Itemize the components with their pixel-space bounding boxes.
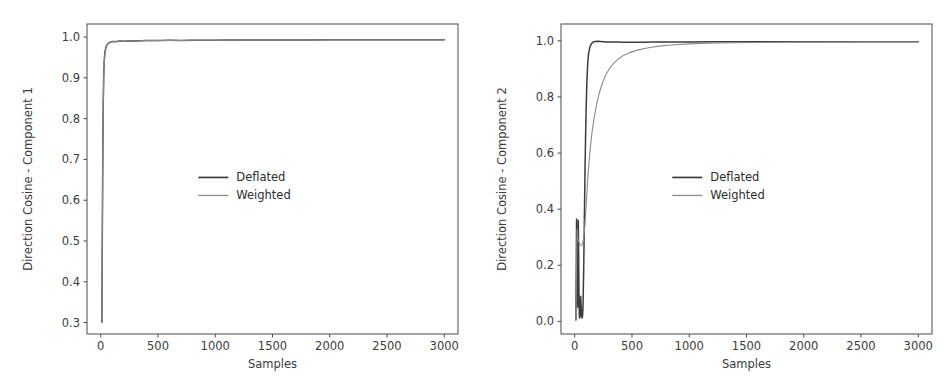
x-tick-label: 0 — [571, 339, 578, 353]
plot-area-component-1: 0500100015002000250030000.30.40.50.60.70… — [0, 0, 474, 386]
y-tick-label: 0.4 — [62, 275, 80, 289]
y-tick-label: 0.6 — [62, 193, 80, 207]
y-tick-label: 1.0 — [536, 34, 554, 48]
y-tick-label: 0.5 — [62, 234, 80, 248]
x-tick-label: 1500 — [732, 339, 761, 353]
x-axis-title: Samples — [248, 357, 297, 371]
x-axis-title: Samples — [722, 357, 771, 371]
y-tick-label: 1.0 — [62, 30, 80, 44]
x-tick-label: 1000 — [201, 339, 230, 353]
y-tick-label: 0.0 — [536, 314, 554, 328]
plot-area-component-2: 0500100015002000250030000.00.20.40.60.81… — [474, 0, 948, 386]
figure-container: 0500100015002000250030000.30.40.50.60.70… — [0, 0, 949, 386]
y-tick-label: 0.3 — [62, 316, 80, 330]
x-tick-label: 2500 — [372, 339, 401, 353]
y-tick-label: 0.6 — [536, 146, 554, 160]
y-tick-label: 0.7 — [62, 152, 80, 166]
x-tick-label: 500 — [147, 339, 169, 353]
x-tick-label: 2000 — [789, 339, 818, 353]
y-tick-label: 0.2 — [536, 258, 554, 272]
y-tick-label: 0.8 — [536, 90, 554, 104]
x-tick-label: 1000 — [675, 339, 704, 353]
x-tick-label: 3000 — [430, 339, 459, 353]
x-tick-label: 0 — [97, 339, 104, 353]
legend-label-deflated: Deflated — [236, 170, 285, 184]
legend-label-weighted: Weighted — [236, 188, 290, 202]
y-tick-label: 0.4 — [536, 202, 554, 216]
x-tick-label: 2000 — [315, 339, 344, 353]
x-tick-label: 3000 — [904, 339, 933, 353]
y-tick-label: 0.9 — [62, 71, 80, 85]
x-tick-label: 1500 — [258, 339, 287, 353]
y-tick-label: 0.8 — [62, 112, 80, 126]
chart-panel-component-2: 0500100015002000250030000.00.20.40.60.81… — [474, 0, 948, 386]
legend-label-deflated: Deflated — [710, 170, 759, 184]
y-axis-title: Direction Cosine - Component 2 — [495, 87, 509, 270]
chart-panel-component-1: 0500100015002000250030000.30.40.50.60.70… — [0, 0, 474, 386]
x-tick-label: 500 — [621, 339, 643, 353]
y-axis-title: Direction Cosine - Component 1 — [21, 87, 35, 270]
legend-label-weighted: Weighted — [710, 188, 764, 202]
x-tick-label: 2500 — [846, 339, 875, 353]
